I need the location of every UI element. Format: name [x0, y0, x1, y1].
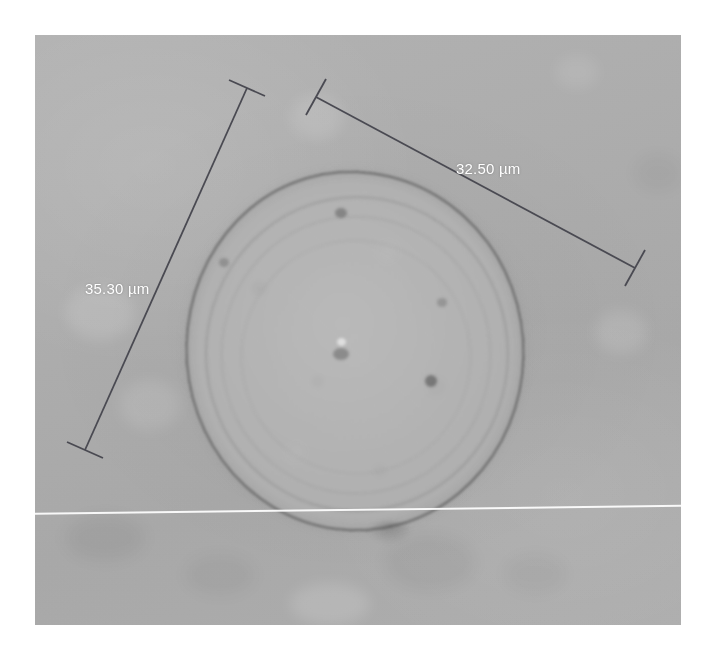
measurement-line-35: [85, 88, 247, 450]
measurement-label-32: 32.50 µm: [456, 160, 520, 177]
micrograph-image: 32.50 µm 35.30 µm: [35, 35, 681, 625]
measurement-label-35: 35.30 µm: [85, 280, 149, 297]
measurement-cap-end-35: [67, 442, 103, 458]
measurement-cap-end-32: [625, 250, 645, 286]
measurement-cap-start-35: [229, 80, 265, 96]
measurement-cap-start-32: [306, 79, 326, 115]
screenshot-page: 32.50 µm 35.30 µm: [0, 0, 712, 657]
measurement-overlay: [35, 35, 681, 625]
measurement-line-32: [316, 97, 635, 268]
